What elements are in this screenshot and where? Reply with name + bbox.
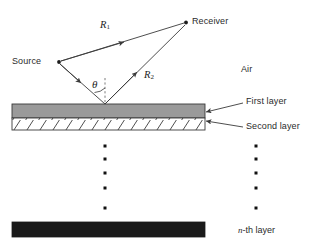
ellipsis-dots-left: [104, 145, 107, 210]
nth-layer-label-suffix: -th layer: [243, 225, 276, 235]
air-label: Air: [241, 64, 252, 74]
nth-layer-label: n-th layer: [238, 225, 275, 235]
ellipsis-dots-right: [255, 145, 258, 210]
second-layer-band: [12, 118, 205, 130]
second-layer-leader: [206, 121, 243, 127]
receiver-label: Receiver: [192, 16, 228, 26]
ray-r2-arrowhead: [105, 72, 137, 104]
ray-incident-arrowhead: [60, 64, 81, 83]
source-point-dot: [57, 60, 61, 64]
second-layer-label: Second layer: [246, 121, 300, 131]
receiver-point-dot: [184, 21, 188, 25]
ray-r1-label: R1: [100, 19, 110, 31]
ray-r1-arrowhead: [61, 42, 124, 61]
ray-r2-subscript: 2: [150, 73, 154, 81]
incidence-angle-label: θ: [92, 78, 97, 90]
ray-paths: [60, 23, 185, 104]
ray-diagram-figure: Source Receiver Air First layer Second l…: [0, 0, 315, 252]
nth-layer-band: [12, 222, 205, 237]
first-layer-leader: [206, 103, 243, 112]
callout-leaders: [206, 103, 243, 127]
layer-stack: [12, 104, 205, 237]
first-layer-band: [12, 104, 205, 118]
ray-r1-subscript: 1: [106, 23, 110, 31]
source-label: Source: [12, 56, 41, 66]
ray-r2-label: R2: [144, 69, 154, 81]
first-layer-label: First layer: [246, 96, 287, 106]
